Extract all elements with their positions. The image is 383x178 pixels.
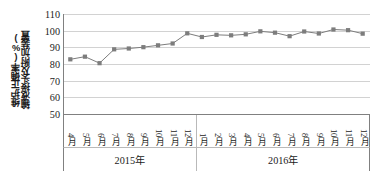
data-point-marker — [273, 31, 277, 35]
data-point-marker — [112, 47, 116, 51]
y-axis-title-line-1: 输液接头及附加装置 — [21, 31, 31, 109]
x-axis-tick-label: 5月 — [255, 133, 267, 146]
data-point-marker — [127, 46, 131, 50]
x-axis-group-labels: 2015年2016年 — [63, 147, 370, 171]
data-point-marker — [361, 32, 365, 36]
y-axis-title-line-2: 维护正确率(%) — [11, 34, 21, 107]
x-axis-tick-label: 12月 — [182, 129, 194, 146]
data-series-line — [63, 14, 370, 114]
y-axis-tick-90: 90 — [50, 42, 64, 53]
x-axis-tick-label: 1月 — [197, 133, 209, 146]
y-axis-tick-70: 70 — [50, 75, 64, 86]
x-axis-tick-label: 6月 — [95, 133, 107, 146]
group-label-2: 2016年 — [196, 148, 371, 171]
x-axis-tick-label: 7月 — [109, 133, 121, 146]
x-axis-tick-label: 8月 — [124, 133, 136, 146]
data-point-marker — [229, 33, 233, 37]
data-point-marker — [185, 31, 189, 35]
x-axis-tick-label: 9月 — [138, 133, 150, 146]
data-point-marker — [331, 27, 335, 31]
x-axis-tick-label: 11月 — [168, 129, 180, 146]
data-point-marker — [317, 31, 321, 35]
data-point-marker — [214, 33, 218, 37]
data-point-marker — [141, 45, 145, 49]
data-point-marker — [83, 55, 87, 59]
x-axis-tick-label: 4月 — [241, 133, 253, 146]
x-axis-tick-label: 10月 — [153, 129, 165, 146]
x-axis-tick-label: 5月 — [80, 133, 92, 146]
group-separator — [196, 148, 197, 171]
data-point-marker — [200, 35, 204, 39]
data-point-marker — [346, 28, 350, 32]
data-point-marker — [156, 43, 160, 47]
x-axis-tick-label: 11月 — [343, 129, 355, 146]
data-point-marker — [244, 32, 248, 36]
data-point-marker — [171, 41, 175, 45]
x-axis-tick-label: 9月 — [314, 133, 326, 146]
data-point-marker — [302, 29, 306, 33]
x-axis-tick-labels: 4月5月6月7月8月9月10月11月12月1月2月3月4月5月6月7月8月9月1… — [63, 114, 370, 147]
y-axis-tick-50: 50 — [50, 109, 64, 120]
x-axis-tick-label: 6月 — [270, 133, 282, 146]
x-axis-tick-label: 10月 — [328, 129, 340, 146]
data-point-marker — [97, 61, 101, 65]
data-point-marker — [68, 57, 72, 61]
plot-area-wrapper: 1101009080706050 — [63, 14, 370, 114]
x-axis-tick-label: 8月 — [299, 133, 311, 146]
y-axis-title: 维护正确率(%) 输液接头及附加装置 — [4, 0, 38, 140]
line-chart: 维护正确率(%) 输液接头及附加装置 1101009080706050 4月5月… — [0, 0, 383, 178]
x-axis-tick-label: 2月 — [212, 133, 224, 146]
data-point-marker — [288, 34, 292, 38]
x-axis-tick-label: 3月 — [226, 133, 238, 146]
x-axis-tick-label: 4月 — [65, 133, 77, 146]
x-axis-tick-label: 12月 — [358, 129, 370, 146]
y-axis-tick-110: 110 — [45, 9, 64, 20]
y-axis-tick-80: 80 — [50, 59, 64, 70]
y-axis-tick-100: 100 — [45, 25, 64, 36]
x-axis-tick-label: 7月 — [285, 133, 297, 146]
y-axis-tick-60: 60 — [50, 92, 64, 103]
group-label-1: 2015年 — [64, 148, 196, 171]
group-separator-upper — [196, 115, 197, 148]
data-point-marker — [258, 29, 262, 33]
